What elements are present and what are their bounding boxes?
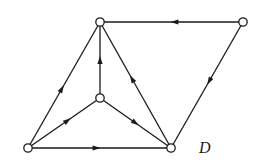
node-middle [96, 94, 104, 102]
arrowhead-icon [170, 19, 178, 24]
arrowhead-icon [205, 76, 213, 86]
edge-bottom-right-to-top-center [100, 22, 171, 148]
graph-edges [28, 22, 243, 148]
node-top-right [239, 18, 247, 26]
edge-top-right-to-bottom-right [171, 22, 243, 148]
graph-label: D [199, 140, 211, 156]
arrowhead-icon [93, 145, 101, 150]
edge-bottom-left-to-top-center [28, 22, 100, 148]
arrowhead-icon [97, 56, 102, 64]
node-bottom-right [167, 144, 175, 152]
directed-graph [0, 0, 258, 162]
node-top-center [96, 18, 104, 26]
arrowhead-icon [128, 74, 136, 84]
node-bottom-left [24, 144, 32, 152]
edge-bottom-left-to-middle [28, 98, 100, 148]
arrowhead-icon [58, 84, 66, 94]
